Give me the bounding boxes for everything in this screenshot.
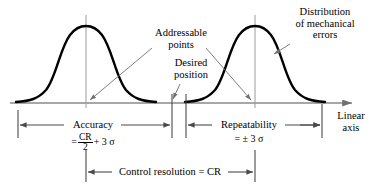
- axis-label-line1: Linear: [328, 110, 374, 122]
- leader-desired-position: [173, 84, 180, 99]
- dimension-label-control-resolution-text: Control resolution = CR: [119, 166, 221, 177]
- callout-desired-position: Desired position: [160, 57, 222, 80]
- callout-distribution-line2: of mechanical: [282, 18, 368, 30]
- accuracy-formula-fraction: CR2: [78, 133, 93, 152]
- leader-addressable-left: [90, 48, 152, 100]
- dimension-formula-repeatability: = ± 3 σ: [209, 133, 289, 144]
- callout-addressable-points-line2: points: [140, 39, 222, 51]
- accuracy-formula-equals: =: [71, 136, 77, 147]
- dimension-label-accuracy-text: Accuracy: [73, 119, 113, 130]
- callout-desired-position-line1: Desired: [160, 57, 222, 69]
- dimension-label-control-resolution: Control resolution = CR: [110, 166, 230, 178]
- dimension-label-repeatability-text: Repeatability: [221, 119, 277, 130]
- dimension-label-accuracy: Accuracy: [62, 119, 124, 131]
- axis-label-line2: axis: [328, 122, 374, 134]
- callout-addressable-points: Addressable points: [140, 27, 222, 50]
- callout-distribution-line1: Distribution: [282, 6, 368, 18]
- callout-distribution-of-mechanical-errors: Distribution of mechanical errors: [282, 6, 368, 41]
- callout-distribution-line3: errors: [282, 29, 368, 41]
- callout-addressable-points-line1: Addressable: [140, 27, 222, 39]
- dimension-formula-accuracy: =CR2+ 3 σ: [48, 133, 138, 152]
- accuracy-formula-denominator: 2: [78, 143, 93, 152]
- figure-canvas: Addressable points Desired position Dist…: [0, 0, 379, 190]
- repeatability-formula-text: = ± 3 σ: [234, 133, 263, 144]
- accuracy-formula-suffix: + 3 σ: [94, 136, 115, 147]
- axis-label-linear-axis: Linear axis: [328, 110, 374, 133]
- callout-desired-position-line2: position: [160, 69, 222, 81]
- dimension-label-repeatability: Repeatability: [209, 119, 289, 131]
